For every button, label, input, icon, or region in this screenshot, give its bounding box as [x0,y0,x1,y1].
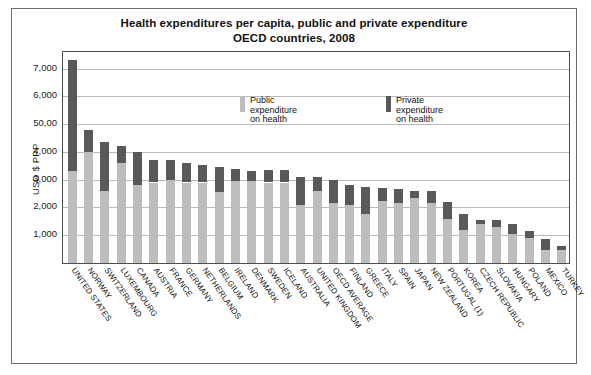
bar-segment-public [198,183,207,264]
bar-segment-private [100,142,109,191]
bar-segment-public [117,163,126,263]
bar-segment-private [329,180,338,204]
bar-segment-public [264,183,273,264]
bar-segment-private [182,163,191,182]
y-axis-tick-label: 4,000 [17,146,57,156]
bar-segment-private [84,130,93,152]
bar-segment-public [313,191,322,263]
chart-title-line-1: Health expenditures per capita, public a… [11,16,577,31]
bar-segment-public [541,250,550,263]
y-axis-tick-label: 50,00 [17,118,57,128]
legend-label-public: Public expenditure on health [250,96,297,125]
y-axis-tick-label: 2,000 [17,201,57,211]
private-expenditure-swatch [386,96,391,112]
bar-group [525,231,534,263]
bar-segment-private [427,191,436,203]
bar-group [492,220,501,263]
bar-segment-private [215,167,224,192]
bar-segment-private [443,202,452,219]
bar-segment-private [378,188,387,200]
public-expenditure-swatch [240,96,245,112]
bar-segment-public [394,203,403,263]
bar-segment-public [459,230,468,263]
bar-segment-public [231,181,240,263]
bar-segment-private [166,160,175,179]
y-axis-tick-label: 6,000 [17,90,57,100]
bar-segment-private [525,231,534,238]
bar-group [443,202,452,263]
bar-group [394,189,403,263]
bar-group [215,167,224,263]
bar-segment-public [280,183,289,264]
bar-segment-private [231,169,240,181]
x-axis-category-labels: UNITED STATESNORWAYSWITZERLANDLUXEMBOURG… [62,266,570,366]
bar-segment-private [492,220,501,227]
bar-segment-public [345,205,354,263]
legend-item-private: Private expenditure on health [386,96,443,125]
bar-group [68,60,77,263]
y-axis-tick-label: 7,000 [17,63,57,73]
bar-group [117,146,126,263]
bar-segment-private [68,60,77,171]
bar-segment-public [133,185,142,263]
bar-segment-private [247,171,256,181]
bar-segment-private [361,187,370,215]
bar-group [427,191,436,263]
bar-group [280,170,289,263]
y-axis-tick-label: 1,000 [17,229,57,239]
bar-group [84,130,93,263]
bar-group [459,214,468,263]
bar-segment-public [166,180,175,263]
bar-segment-public [100,191,109,263]
bar-group [345,185,354,263]
bar-group [264,170,273,263]
bar-group [247,171,256,263]
bar-group [329,180,338,263]
bar-segment-public [182,183,191,264]
bar-segment-public [84,152,93,263]
bar-group [166,160,175,263]
bar-segment-public [557,250,566,263]
bar-segment-private [394,189,403,203]
legend-item-public: Public expenditure on health [240,96,297,125]
bar-segment-public [149,183,158,264]
bar-group [410,191,419,263]
bar-group [476,220,485,263]
bar-series-container [64,52,570,263]
bar-segment-private [459,214,468,229]
bar-group [557,246,566,263]
bar-segment-public [378,201,387,263]
bar-segment-private [345,185,354,204]
bar-group [378,188,387,263]
bar-group [296,177,305,263]
bar-segment-private [133,152,142,185]
bar-segment-public [476,224,485,263]
bar-segment-public [68,171,77,263]
bar-segment-private [149,160,158,182]
bar-segment-public [427,203,436,263]
bar-segment-public [508,234,517,263]
plot-area [62,51,570,264]
bar-group [313,177,322,263]
bar-group [133,152,142,263]
bar-segment-public [410,198,419,263]
chart-figure: Health expenditures per capita, public a… [0,0,591,375]
bar-segment-private [296,177,305,205]
bar-group [508,224,517,263]
bar-segment-public [492,227,501,263]
bar-segment-private [541,239,550,250]
bar-segment-private [280,170,289,182]
bar-segment-public [361,214,370,263]
bar-segment-private [198,165,207,182]
bar-group [541,239,550,263]
bar-group [182,163,191,263]
bar-segment-private [313,177,322,191]
bar-segment-public [296,205,305,263]
bar-segment-public [525,238,534,263]
bar-group [231,169,240,263]
bar-group [361,187,370,263]
bar-segment-private [264,170,273,182]
bar-segment-public [215,192,224,263]
bar-group [149,160,158,263]
bar-segment-private [117,146,126,163]
